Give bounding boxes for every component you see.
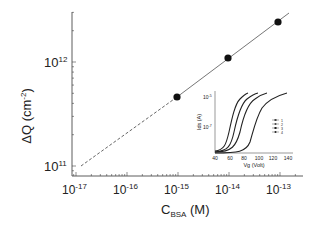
svg-text:4: 4 [281,131,283,135]
x-tick-label-15: 10-15 [164,182,189,197]
curve-3 [215,93,267,152]
inset-curves [215,93,287,153]
x-tick-label-14: 10-14 [215,182,240,197]
y-tick-label-11: 1011 [44,159,67,174]
y-tick-label-12: 1012 [44,55,68,70]
inset-y-axis-title: Ids (A) [196,114,202,130]
x-tick-label-16: 10-16 [113,182,138,197]
svg-text:140: 140 [284,155,293,161]
y-axis-title: ΔQ (cm-2) [19,88,34,144]
axis-ticks [72,12,295,176]
inset-y-tick-label-top: 10-5 [203,94,212,100]
svg-text:100: 100 [255,155,264,161]
data-point [224,54,231,61]
inset-plot: 10-5 10-7 Ids (A) 40 60 80 100 120 140 V… [196,91,293,168]
svg-text:40: 40 [212,155,218,161]
inset-x-axis-title: Vg (Volt) [243,162,264,168]
data-point [173,93,180,100]
extrapolation-line [81,97,177,166]
x-axis-title: CBSA (M) [161,202,210,219]
svg-text:120: 120 [269,155,278,161]
chart: 1012 1011 10-17 10-16 10-15 10-14 10-13 … [0,0,320,231]
data-point [274,18,281,25]
inset-legend: 1 2 3 4 [272,119,283,135]
inset-y-tick-label-mid: 10-7 [203,124,212,130]
inset-x-tick-labels: 40 60 80 100 120 140 [212,155,292,161]
svg-text:80: 80 [241,155,247,161]
main-plot: 1012 1011 10-17 10-16 10-15 10-14 10-13 … [19,12,303,219]
svg-text:60: 60 [227,155,233,161]
fit-line [177,13,289,97]
x-tick-label-13: 10-13 [266,182,291,197]
x-tick-label-17: 10-17 [62,182,87,197]
